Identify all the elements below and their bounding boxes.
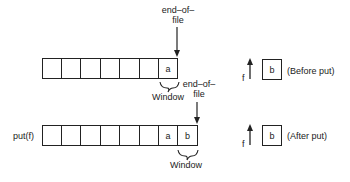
- pointer-arrow-after: [247, 124, 253, 145]
- buffer-variable-after: b: [262, 125, 282, 146]
- file-cell-window: a: [158, 58, 178, 79]
- file-cell: [42, 125, 62, 146]
- file-cell: a: [158, 125, 178, 146]
- file-cell: [100, 58, 120, 79]
- file-cell: [139, 58, 159, 79]
- file-cell: [139, 125, 159, 146]
- window-brace-top: [160, 82, 179, 92]
- file-cell: [119, 58, 140, 79]
- state-label-after: (After put): [287, 131, 327, 141]
- file-cell: [100, 125, 120, 146]
- operation-label: put(f): [13, 131, 34, 141]
- state-label-before: (Before put): [287, 66, 335, 76]
- window-brace-bottom: [178, 150, 198, 160]
- pointer-label-before: f: [242, 73, 245, 83]
- file-cell: [61, 58, 81, 79]
- eof-label-line1: end–of–: [180, 79, 218, 89]
- eof-label-line1: end–of–: [160, 5, 196, 15]
- eof-label-line2: file: [160, 15, 196, 25]
- file-cell: [80, 58, 101, 79]
- eof-label-line2: file: [180, 89, 218, 99]
- eof-arrow-top: [174, 27, 180, 57]
- file-cell-window: b: [177, 125, 198, 146]
- file-cell: [119, 125, 140, 146]
- pointer-arrow-before: [247, 58, 253, 79]
- file-cell: [42, 58, 62, 79]
- eof-label-bottom: end–of– file: [180, 79, 218, 99]
- file-cell: [61, 125, 81, 146]
- eof-label-top: end–of– file: [160, 5, 196, 25]
- window-label-after: Window: [170, 160, 202, 170]
- pointer-label-after: f: [242, 139, 245, 149]
- diagram-lines: [0, 0, 350, 182]
- eof-arrow-bottom: [194, 102, 200, 124]
- file-cell: [80, 125, 101, 146]
- buffer-variable-before: b: [262, 59, 282, 80]
